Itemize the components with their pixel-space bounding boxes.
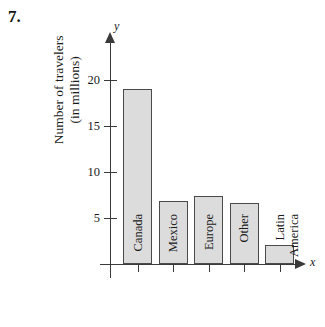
x-axis-category-label-line: Other xyxy=(238,214,251,276)
y-axis-tick-label-wrap: 5 xyxy=(78,218,100,219)
y-axis-arrowhead-icon xyxy=(105,32,115,43)
x-axis-category-label-rotated: Canada xyxy=(132,214,145,276)
x-axis-category-label-rotated: Mexico xyxy=(167,214,180,276)
y-axis-tick xyxy=(104,172,117,173)
y-axis-tick-label: 15 xyxy=(78,120,100,133)
y-axis-tick-label: 20 xyxy=(78,74,100,87)
y-axis-tick-label: 10 xyxy=(78,166,100,179)
bar-chart: y x Number of travelers (in millions) 51… xyxy=(0,0,325,327)
y-axis-tick-label-wrap: 10 xyxy=(78,172,100,173)
x-axis-line xyxy=(100,264,296,265)
x-axis-category-label-line: Mexico xyxy=(167,214,180,276)
y-axis-tick-label-wrap: 20 xyxy=(78,80,100,81)
x-axis-category-label-line: Europe xyxy=(203,214,216,276)
x-axis-category-label-line: Canada xyxy=(132,214,145,276)
x-axis-category-label-rotated: LatinAmerica xyxy=(274,214,302,276)
y-axis-tick-label-wrap: 15 xyxy=(78,126,100,127)
x-axis-category-label: LatinAmerica xyxy=(274,276,325,290)
figure: 7. y x Number of travelers (in millions)… xyxy=(0,0,325,327)
y-axis-tick xyxy=(104,218,117,219)
y-axis-title-line-1: Number of travelers xyxy=(51,10,67,170)
x-axis-category-label-line: Latin xyxy=(274,214,288,276)
x-axis-category-label-rotated: Europe xyxy=(203,214,216,276)
x-axis-letter: x xyxy=(310,256,315,268)
y-axis-title: Number of travelers (in millions) xyxy=(51,10,83,170)
y-axis-letter: y xyxy=(114,20,119,32)
y-axis-tick xyxy=(104,126,117,127)
y-axis-tick-label: 5 xyxy=(78,212,100,225)
x-axis-category-label-rotated: Other xyxy=(238,214,251,276)
y-axis-tick xyxy=(104,80,117,81)
y-axis-line xyxy=(110,40,111,278)
y-axis-title-line-2: (in millions) xyxy=(67,10,83,170)
x-axis-category-label-line: America xyxy=(288,214,302,276)
